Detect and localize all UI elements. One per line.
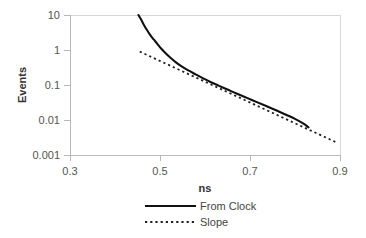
semilog-chart: 10 1 0.1 0.01 0.001 0.3 0.5 0.7 0.9 ns E… xyxy=(0,0,366,238)
legend-label-slope: Slope xyxy=(200,216,228,228)
x-tick-label-1: 0.5 xyxy=(152,165,167,177)
y-tick-label-3: 0.01 xyxy=(39,114,60,126)
x-tick-label-0: 0.3 xyxy=(62,165,77,177)
y-tick-label-2: 0.1 xyxy=(45,79,60,91)
axes xyxy=(70,15,340,155)
series-line-slope xyxy=(140,52,338,143)
x-tick-labels: 0.3 0.5 0.7 0.9 xyxy=(62,165,347,177)
y-axis-ticks xyxy=(64,15,70,155)
chart-legend: From Clock Slope xyxy=(145,200,257,228)
y-tick-label-1: 1 xyxy=(54,44,60,56)
chart-container: 10 1 0.1 0.01 0.001 0.3 0.5 0.7 0.9 ns E… xyxy=(0,0,366,238)
y-tick-label-4: 0.001 xyxy=(32,149,60,161)
y-tick-labels: 10 1 0.1 0.01 0.001 xyxy=(32,9,60,161)
x-tick-label-3: 0.9 xyxy=(332,165,347,177)
legend-label-from-clock: From Clock xyxy=(200,200,257,212)
x-axis-ticks xyxy=(70,155,340,161)
series-line-from-clock xyxy=(138,15,308,127)
x-tick-label-2: 0.7 xyxy=(242,165,257,177)
y-axis-title: Events xyxy=(16,67,28,103)
y-tick-label-0: 10 xyxy=(48,9,60,21)
plot-frame xyxy=(70,15,340,155)
x-axis-title: ns xyxy=(199,182,212,194)
